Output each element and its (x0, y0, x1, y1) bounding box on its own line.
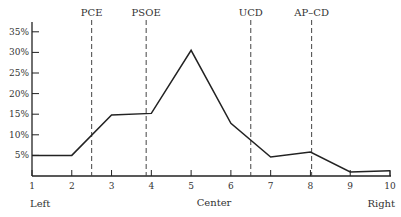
y-tick-label: 35% (9, 27, 29, 37)
right-caption: Right (367, 198, 395, 209)
x-tick-label: 5 (188, 181, 194, 191)
party-label: AP–CD (293, 7, 329, 18)
y-tick-label: 30% (9, 47, 29, 57)
y-tick-label: 5% (15, 150, 30, 160)
data-series (32, 50, 390, 176)
left-caption: Left (30, 198, 50, 209)
x-tick-label: 7 (268, 181, 274, 191)
y-tick-label: 10% (9, 130, 29, 140)
x-tick-label: 9 (347, 181, 353, 191)
party-label: PSOE (132, 7, 161, 18)
axis-labels: LeftCenterRight (30, 197, 395, 209)
party-label: UCD (239, 7, 263, 18)
y-tick-label: 20% (9, 89, 29, 99)
x-tick-label: 6 (228, 181, 234, 191)
x-tick-label: 3 (109, 181, 115, 191)
x-tick-label: 8 (308, 181, 314, 191)
y-tick-label: 25% (9, 68, 29, 78)
party-annotations: PCEPSOEUCDAP–CD (81, 7, 329, 176)
center-caption: Center (197, 197, 232, 208)
line-chart: 5%10%15%20%25%30%35%12345678910 PCEPSOEU… (0, 0, 401, 217)
x-tick-label: 4 (148, 181, 154, 191)
x-tick-label: 2 (69, 181, 75, 191)
x-tick-label: 10 (384, 181, 396, 191)
series-line (32, 50, 390, 172)
x-tick-label: 1 (29, 181, 35, 191)
party-label: PCE (81, 7, 103, 18)
y-tick-label: 15% (9, 109, 29, 119)
